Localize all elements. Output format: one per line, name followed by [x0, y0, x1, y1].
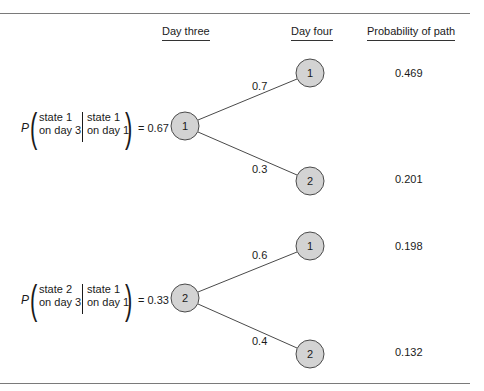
svg-text:1: 1 [307, 240, 313, 252]
day-four-node: 1 [296, 59, 324, 87]
path-probability: 0.201 [395, 173, 423, 186]
path-probability: 0.469 [395, 67, 423, 80]
path-probability: 0.132 [395, 346, 423, 359]
svg-text:2: 2 [307, 175, 313, 187]
edge-2-2 [198, 304, 297, 348]
edge-1-2 [198, 132, 297, 175]
day-three-node-2: 2 [171, 284, 199, 312]
edge-2-1 [198, 252, 297, 292]
edge-label: 0.3 [252, 163, 267, 175]
edge-1-1 [198, 79, 297, 120]
probability-tree: 0.7 0.3 0.6 0.4 1 2 1 2 1 2 [0, 0, 484, 391]
edge-label: 0.7 [252, 80, 267, 92]
edge-label: 0.6 [252, 249, 267, 261]
path-probability: 0.198 [395, 240, 423, 253]
day-four-node: 2 [296, 340, 324, 368]
day-three-node-1: 1 [171, 112, 199, 140]
edge-label: 0.4 [252, 335, 267, 347]
day-four-node: 1 [296, 232, 324, 260]
svg-text:2: 2 [182, 292, 188, 304]
svg-text:1: 1 [307, 67, 313, 79]
svg-text:1: 1 [182, 120, 188, 132]
svg-text:2: 2 [307, 348, 313, 360]
day-four-node: 2 [296, 167, 324, 195]
